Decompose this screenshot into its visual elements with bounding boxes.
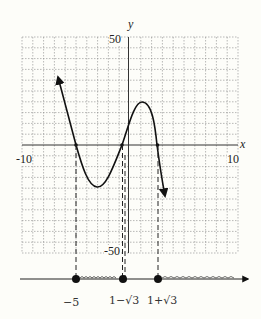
y-axis-label: y <box>128 18 133 30</box>
y-min-label: -50 <box>104 245 120 257</box>
polynomial-curve <box>58 77 165 196</box>
sign-label-3: 1+√3 <box>147 295 177 306</box>
squiggle-1 <box>80 277 116 279</box>
x-max-label: 10 <box>227 153 239 165</box>
sign-point-2 <box>119 275 127 283</box>
x-axis-label: x <box>240 138 245 150</box>
y-max-label: 50 <box>109 33 121 45</box>
x-min-label: -10 <box>16 153 32 165</box>
sign-point-3 <box>154 275 162 283</box>
sign-label-1: −5 <box>63 297 79 308</box>
graph-canvas <box>0 0 261 319</box>
sign-label-2: 1−√3 <box>109 295 139 306</box>
sign-point-1 <box>72 275 80 283</box>
squiggle-2 <box>162 277 234 279</box>
projection-lines <box>76 145 158 279</box>
